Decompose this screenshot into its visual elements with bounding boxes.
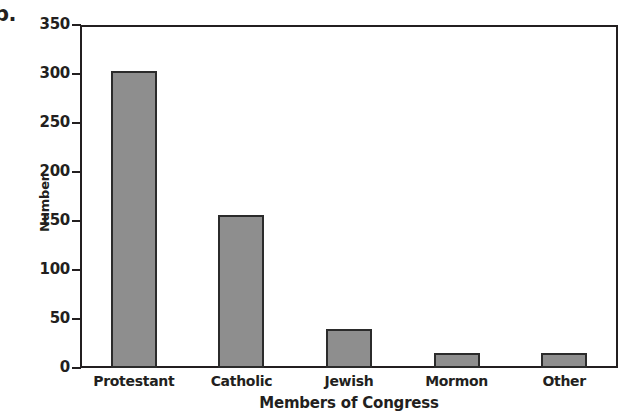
bar-other [541,353,587,368]
bar-slot [80,25,188,368]
x-tick-label-other: Other [510,373,618,389]
y-tick-label: 250 [26,113,70,132]
y-tick-label: 150 [26,211,70,230]
x-tick-label-catholic: Catholic [188,373,296,389]
x-tick-label-jewish: Jewish [295,373,403,389]
y-tick-label: 50 [26,309,70,328]
bar-protestant [111,71,157,368]
x-axis-ticks: ProtestantCatholicJewishMormonOther [80,373,618,395]
y-tick-label: 0 [26,358,70,377]
x-tick-label-mormon: Mormon [403,373,511,389]
bars-layer [80,25,618,368]
y-tick-label: 350 [26,15,70,34]
y-tick-label: 200 [26,162,70,181]
bar-slot [403,25,511,368]
y-tick-label: 300 [26,64,70,83]
x-axis-title: Members of Congress [80,394,618,412]
x-tick-label-protestant: Protestant [80,373,188,389]
bar-catholic [218,215,264,368]
bar-chart-figure: b. Number 050100150200250300350 Protesta… [0,0,633,417]
panel-letter: b. [0,2,16,26]
bar-jewish [326,329,372,368]
bar-slot [510,25,618,368]
bar-mormon [434,353,480,368]
y-tick-label: 100 [26,260,70,279]
bar-slot [188,25,296,368]
bar-slot [295,25,403,368]
